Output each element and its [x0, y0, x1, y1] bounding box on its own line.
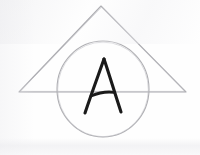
triangle-shape-texture: [20, 7, 185, 91]
circle-shape-texture: [58, 42, 149, 137]
letter-a-crossbar: [91, 92, 115, 96]
letter-a-right-stroke: [104, 59, 121, 112]
figure-canvas: [0, 0, 200, 155]
geometry-figure: [0, 0, 200, 155]
letter-a-left-stroke: [85, 59, 104, 113]
letter-a-glyph: [85, 59, 121, 113]
triangle-shape: [19, 6, 186, 92]
